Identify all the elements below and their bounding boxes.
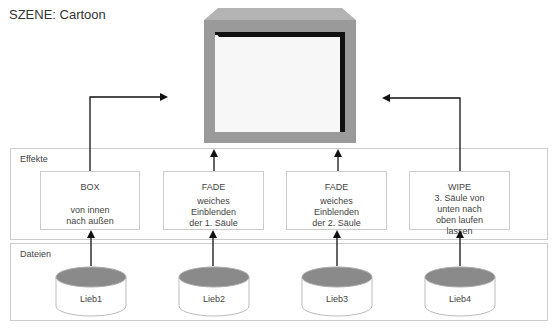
effect-name: FADE <box>164 182 263 192</box>
effect-desc-line: der 2. Säule <box>287 218 386 229</box>
files-panel-label: Dateien <box>20 249 51 259</box>
file-label: Lieb2 <box>178 294 250 304</box>
effect-desc-line: von innen <box>41 205 139 216</box>
effect-desc-line: nach außen <box>41 216 139 227</box>
effect-desc-line: oben laufen <box>410 215 509 226</box>
database-icon <box>55 266 127 318</box>
file-label: Lieb3 <box>301 294 373 304</box>
database-icon <box>178 266 250 318</box>
effect-desc-line: Einblenden <box>164 207 263 218</box>
scene-title: SZENE: Cartoon <box>9 7 106 22</box>
file-cylinder-lieb4[interactable]: Lieb4 <box>424 266 496 318</box>
database-icon <box>301 266 373 318</box>
effect-desc-line: der 1. Säule <box>164 218 263 229</box>
effect-box[interactable]: BOX von innen nach außen <box>40 171 140 230</box>
file-cylinder-lieb1[interactable]: Lieb1 <box>55 266 127 318</box>
effect-fade-1[interactable]: FADE weiches Einblenden der 1. Säule <box>163 171 264 230</box>
effect-name: FADE <box>287 182 386 192</box>
file-label: Lieb4 <box>424 294 496 304</box>
effect-fade-2[interactable]: FADE weiches Einblenden der 2. Säule <box>286 171 387 230</box>
effect-desc-line: lassen <box>410 226 509 237</box>
file-cylinder-lieb3[interactable]: Lieb3 <box>301 266 373 318</box>
effect-desc-line: unten nach <box>410 204 509 215</box>
effect-desc-line: 3. Säule von <box>410 193 509 204</box>
database-icon <box>424 266 496 318</box>
effect-name: BOX <box>41 182 139 192</box>
effect-wipe[interactable]: WIPE 3. Säule von unten nach oben laufen… <box>409 171 510 230</box>
file-label: Lieb1 <box>55 294 127 304</box>
file-cylinder-lieb2[interactable]: Lieb2 <box>178 266 250 318</box>
effect-desc-line: weiches <box>164 196 263 207</box>
effect-desc-line: weiches <box>287 196 386 207</box>
effects-panel-label: Effekte <box>20 154 48 164</box>
effect-name: WIPE <box>410 182 509 192</box>
effect-desc-line: Einblenden <box>287 207 386 218</box>
